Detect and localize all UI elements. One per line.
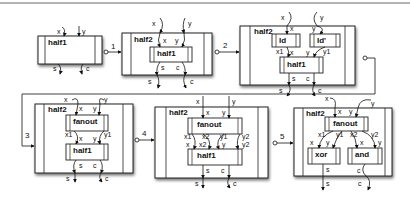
svg-text:x2: x2: [350, 131, 358, 138]
svg-text:x: x: [310, 139, 314, 146]
svg-text:s: s: [195, 180, 199, 187]
svg-text:half2: half2: [48, 105, 67, 114]
step-arrow-4: 4: [135, 129, 154, 142]
svg-text:x: x: [186, 141, 190, 148]
svg-text:y1: y1: [220, 133, 228, 141]
svg-text:x1: x1: [318, 131, 326, 138]
svg-text:s: s: [279, 87, 283, 94]
svg-text:y: y: [349, 108, 353, 116]
step-arrow-5: 5: [273, 132, 293, 145]
svg-text:x: x: [325, 95, 329, 102]
svg-text:y2: y2: [242, 133, 250, 141]
svg-text:y: y: [104, 96, 108, 104]
svg-text:c: c: [105, 175, 109, 182]
panel-6: half2 fanout xor and x x y y x1 x y1 y x…: [294, 95, 392, 190]
svg-text:y2: y2: [242, 141, 250, 149]
svg-text:y: y: [371, 100, 375, 108]
svg-text:y: y: [326, 139, 330, 147]
svg-text:x1: x1: [276, 48, 284, 55]
svg-text:y: y: [93, 105, 97, 113]
svg-text:y: y: [93, 135, 97, 143]
svg-text:x1: x1: [65, 131, 73, 138]
panel-1: half1 x y s c: [38, 26, 102, 74]
svg-text:x: x: [163, 37, 167, 44]
svg-text:x: x: [196, 98, 200, 105]
svg-text:1: 1: [111, 42, 116, 51]
svg-text:x: x: [57, 28, 61, 35]
svg-text:half2: half2: [254, 27, 273, 36]
svg-text:2: 2: [223, 41, 228, 50]
svg-text:x: x: [281, 14, 285, 21]
svg-text:Id': Id': [317, 36, 326, 45]
svg-text:4: 4: [142, 129, 147, 138]
svg-text:y: y: [232, 98, 236, 106]
svg-text:c: c: [93, 162, 97, 169]
svg-text:y1: y1: [336, 131, 344, 139]
svg-text:half2: half2: [169, 108, 188, 117]
step-arrow-2: 2: [215, 41, 239, 54]
svg-text:y: y: [175, 37, 179, 45]
svg-text:Id: Id: [279, 36, 286, 45]
half2-box: [35, 104, 133, 173]
svg-text:x: x: [79, 105, 83, 112]
svg-text:half1: half1: [157, 49, 176, 58]
svg-text:half1: half1: [73, 146, 92, 155]
svg-text:y: y: [188, 20, 192, 28]
svg-text:s: s: [326, 166, 330, 173]
svg-text:x: x: [290, 49, 294, 56]
svg-text:5: 5: [280, 132, 285, 141]
svg-text:c: c: [318, 87, 322, 94]
svg-text:x1: x1: [184, 133, 192, 140]
step-arrow-1: 1: [104, 42, 121, 54]
svg-text:y: y: [222, 141, 226, 149]
svg-text:x2: x2: [202, 133, 210, 140]
svg-text:c: c: [86, 65, 90, 72]
panel-5: half2 fanout half1 x x y y x1 x x2 x2 y1…: [155, 96, 268, 188]
svg-text:y: y: [312, 25, 316, 33]
svg-text:s: s: [53, 65, 57, 72]
panel-3: half2 Id Id' half1 x x y y x1 x y y1 s c: [240, 12, 355, 96]
svg-text:xor: xor: [315, 150, 327, 159]
panel-4: half2 fanout half1 x x y y x1 x y y1 s c…: [35, 96, 133, 182]
svg-text:fanout: fanout: [73, 117, 98, 126]
svg-text:y: y: [82, 28, 86, 36]
svg-text:s: s: [326, 180, 330, 187]
svg-text:half2: half2: [134, 35, 153, 44]
svg-text:y: y: [320, 14, 324, 22]
svg-text:3: 3: [25, 131, 30, 140]
svg-text:half1: half1: [197, 151, 216, 160]
svg-text:s: s: [66, 175, 70, 182]
svg-text:s: s: [206, 167, 210, 174]
svg-text:s: s: [79, 162, 83, 169]
svg-text:y: y: [222, 109, 226, 117]
svg-text:y: y: [378, 139, 382, 147]
svg-text:c: c: [357, 167, 361, 174]
svg-text:c: c: [190, 78, 194, 85]
svg-text:c: c: [221, 167, 225, 174]
svg-text:c: c: [233, 180, 237, 187]
svg-text:s: s: [292, 75, 296, 82]
panel-2: half2 half1 x y x y s c s c: [122, 18, 212, 88]
svg-text:fanout: fanout: [197, 120, 222, 129]
svg-text:c: c: [306, 75, 310, 82]
svg-text:y: y: [306, 49, 310, 57]
svg-text:x: x: [206, 109, 210, 116]
svg-text:x: x: [360, 139, 364, 146]
svg-text:x: x: [79, 135, 83, 142]
box-title: half1: [48, 38, 67, 47]
svg-text:y1: y1: [104, 131, 112, 139]
svg-text:c: c: [176, 64, 180, 71]
svg-text:half2: half2: [306, 109, 325, 118]
diagram-canvas: half1 x y s c 1 half2 half1 x y x y: [0, 0, 410, 198]
svg-text:x: x: [152, 20, 156, 27]
svg-text:s: s: [161, 64, 165, 71]
svg-text:x: x: [290, 25, 294, 32]
svg-text:s: s: [148, 78, 152, 85]
svg-text:c: c: [358, 180, 362, 187]
svg-text:x: x: [338, 108, 342, 115]
svg-text:x: x: [64, 96, 68, 103]
svg-text:half1: half1: [287, 60, 306, 69]
svg-text:and: and: [355, 150, 369, 159]
svg-text:fanout: fanout: [333, 119, 358, 128]
svg-text:x2: x2: [199, 141, 207, 148]
